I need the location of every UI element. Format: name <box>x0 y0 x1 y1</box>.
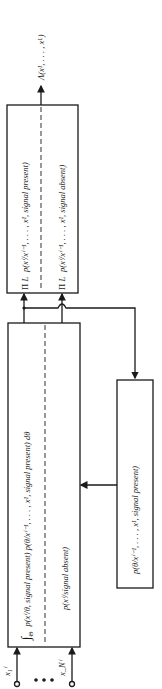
product-block-bottom-row: Π L p(xⁱ/xⁱ⁻¹, . . . , x¹, signal absent… <box>57 165 67 290</box>
product-symbol: Π <box>57 284 67 290</box>
likelihood-block-bottom-row: p(xⁱ/signal absent) <box>60 547 70 610</box>
output-label: Λ(x¹, . . . , xᴸ) <box>36 34 46 80</box>
product-expression: p(xⁱ/xⁱ⁻¹, . . . , x¹, signal present) <box>20 162 30 272</box>
product-upper-limit: L <box>20 277 30 282</box>
product-block-frame <box>7 105 78 293</box>
product-block-top-row: Π L p(xⁱ/xⁱ⁻¹, . . . , x¹, signal presen… <box>20 162 30 290</box>
integral-domain: Θ <box>27 631 35 636</box>
input-label-last: x_Nⁱ <box>57 660 67 676</box>
integral-symbol: ∫ <box>18 636 33 640</box>
posterior-block-label: p(θ/xⁱ⁻¹, . . . , x¹, signal present) <box>130 466 140 574</box>
product-symbol: Π <box>20 284 30 290</box>
likelihood-expression: p(xⁱ/θ, signal present) p(θ/xⁱ⁻¹, . . . … <box>22 432 32 627</box>
input-label-first: x₁ⁱ <box>2 667 12 676</box>
likelihood-block-top-row: ∫Θ p(xⁱ/θ, signal present) p(θ/xⁱ⁻¹, . .… <box>21 432 36 640</box>
product-expression: p(xⁱ/xⁱ⁻¹, . . . , x¹, signal absent) <box>57 165 67 272</box>
product-upper-limit: L <box>57 277 67 282</box>
